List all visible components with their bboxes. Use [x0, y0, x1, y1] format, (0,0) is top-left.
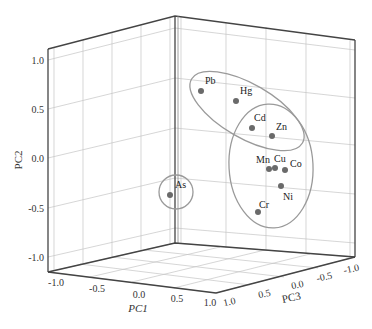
svg-text:Mn: Mn: [256, 154, 270, 165]
pc2-axis-label: PC2: [12, 151, 24, 170]
point-ni: Ni: [278, 183, 293, 202]
point-zn: Zn: [269, 121, 287, 139]
pc1-axis-label: PC1: [127, 302, 148, 314]
svg-text:-1.0: -1.0: [48, 277, 64, 288]
svg-text:Pb: Pb: [205, 75, 216, 86]
point-hg: Hg: [233, 85, 252, 104]
svg-text:0.5: 0.5: [171, 293, 184, 304]
svg-text:Co: Co: [290, 158, 302, 169]
svg-text:Cr: Cr: [259, 199, 270, 210]
svg-text:Zn: Zn: [276, 121, 287, 132]
svg-text:Hg: Hg: [240, 85, 252, 96]
svg-text:Ni: Ni: [283, 191, 293, 202]
svg-text:-0.5: -0.5: [89, 283, 105, 294]
point-pb: Pb: [198, 75, 216, 94]
pc2-ticks: 1.0 0.5 0.0 -0.5 -1.0: [28, 55, 44, 263]
chart-canvas: Pb Hg Cd Zn Mn Cu Co Ni: [0, 0, 372, 329]
svg-text:-1.0: -1.0: [28, 252, 44, 263]
svg-text:0.0: 0.0: [32, 153, 45, 164]
svg-text:Cd: Cd: [254, 112, 266, 123]
point-cd: Cd: [249, 112, 266, 131]
svg-text:-0.5: -0.5: [28, 203, 44, 214]
right-wall-grid: [175, 17, 355, 257]
cluster-outlines: [159, 56, 316, 230]
svg-text:-0.5: -0.5: [315, 270, 333, 284]
svg-text:1.0: 1.0: [32, 55, 45, 66]
point-mn: Mn: [256, 154, 272, 172]
svg-text:0.0: 0.0: [133, 289, 146, 300]
pc3-axis-label: PC3: [281, 289, 303, 305]
cluster-ellipse-mn-cu-co-ni-cr: [226, 102, 316, 230]
svg-text:Cu: Cu: [274, 153, 286, 164]
point-cr: Cr: [255, 199, 270, 215]
pca-3d-scatter-chart: Pb Hg Cd Zn Mn Cu Co Ni: [0, 0, 372, 329]
svg-text:0.5: 0.5: [257, 287, 272, 300]
svg-text:1.0: 1.0: [222, 295, 237, 308]
svg-text:0.5: 0.5: [32, 104, 45, 115]
cluster-ellipse-pb-hg-cd-zn: [178, 56, 316, 167]
svg-text:-1.0: -1.0: [342, 262, 360, 276]
left-wall-grid: [48, 18, 175, 270]
svg-text:1.0: 1.0: [204, 297, 217, 308]
svg-text:As: As: [175, 179, 186, 190]
